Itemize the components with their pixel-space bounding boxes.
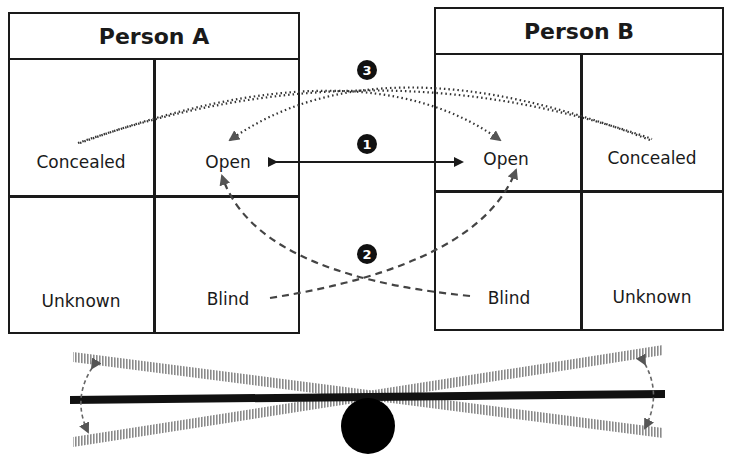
badge-1: 1 bbox=[357, 134, 377, 154]
connection-2-dashed-arrows bbox=[222, 170, 516, 298]
badge-3: 3 bbox=[357, 60, 377, 80]
seesaw-balance bbox=[70, 345, 665, 454]
svg-text:2: 2 bbox=[362, 247, 371, 262]
svg-text:3: 3 bbox=[362, 63, 371, 78]
connection-overlay: 3 1 2 bbox=[0, 0, 733, 454]
svg-text:1: 1 bbox=[362, 137, 371, 152]
badge-2: 2 bbox=[357, 244, 377, 264]
fulcrum-icon bbox=[341, 398, 395, 454]
